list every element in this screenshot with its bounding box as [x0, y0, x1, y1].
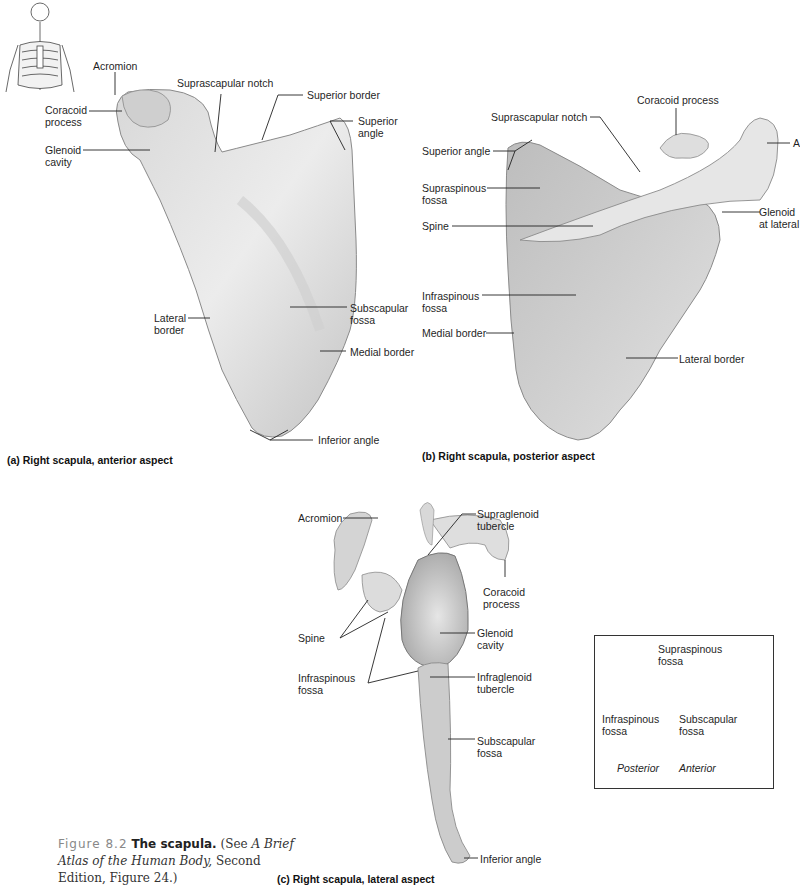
label-c-infraglenoid-tubercle: Infraglenoid tubercle: [477, 671, 532, 695]
label-c-coracoid-process: Coracoid process: [483, 586, 525, 610]
label-a-glenoid-cavity: Glenoid cavity: [45, 144, 81, 168]
legend-supraspinous: Supraspinous fossa: [658, 643, 722, 667]
label-b-supraspinous-fossa: Supraspinous fossa: [422, 182, 486, 206]
label-c-infraspinous-fossa: Infraspinous fossa: [298, 672, 355, 696]
label-b-suprascapular-notch: Suprascapular notch: [491, 111, 587, 123]
caption-panel-a: (a) Right scapula, anterior aspect: [7, 454, 173, 466]
label-a-lateral-border: Lateral border: [154, 312, 186, 336]
label-b-coracoid-process: Coracoid process: [637, 94, 719, 106]
label-a-inferior-angle: Inferior angle: [318, 434, 379, 446]
label-b-lateral-border: Lateral border: [679, 353, 744, 365]
skeleton-thumbnail: [6, 3, 74, 92]
label-c-inferior-angle: Inferior angle: [480, 853, 541, 865]
label-a-acromion: Acromion: [93, 60, 137, 72]
label-b-glenoid: Glenoid at lateral: [759, 206, 799, 230]
label-a-suprascapular-notch: Suprascapular notch: [177, 77, 273, 89]
label-c-supraglenoid-tubercle: Supraglenoid tubercle: [477, 508, 539, 532]
label-c-spine: Spine: [298, 632, 325, 644]
caption-panel-b: (b) Right scapula, posterior aspect: [422, 450, 595, 462]
label-a-superior-border: Superior border: [307, 89, 380, 101]
label-b-superior-angle: Superior angle: [422, 145, 490, 157]
figure-title: The scapula.: [131, 837, 216, 851]
figure-number: Figure 8.2: [58, 837, 128, 851]
legend-anterior: Anterior: [679, 762, 716, 774]
label-a-subscapular-fossa: Subscapular fossa: [350, 302, 408, 326]
label-c-acromion: Acromion: [298, 512, 342, 524]
figure-caption: Figure 8.2 The scapula. (See A Brief Atl…: [58, 836, 298, 887]
label-a-medial-border: Medial border: [350, 346, 414, 358]
label-b-medial-border: Medial border: [422, 327, 486, 339]
label-c-subscapular-fossa: Subscapular fossa: [477, 735, 535, 759]
scapula-posterior: [506, 118, 778, 440]
scapula-anterior: [116, 89, 356, 437]
caption-panel-c: (c) Right scapula, lateral aspect: [277, 873, 435, 885]
label-b-acromion-truncated: A: [793, 137, 800, 149]
label-c-glenoid-cavity: Glenoid cavity: [477, 627, 513, 651]
figure-caption-pre: (See: [217, 837, 252, 851]
label-b-spine: Spine: [422, 220, 449, 232]
legend-subscapular: Subscapular fossa: [679, 713, 737, 737]
label-a-superior-angle: Superior angle: [358, 115, 398, 139]
label-a-coracoid-process: Coracoid process: [45, 104, 87, 128]
legend-posterior: Posterior: [617, 762, 659, 774]
label-b-infraspinous-fossa: Infraspinous fossa: [422, 290, 479, 314]
legend-infraspinous: Infraspinous fossa: [602, 713, 659, 737]
